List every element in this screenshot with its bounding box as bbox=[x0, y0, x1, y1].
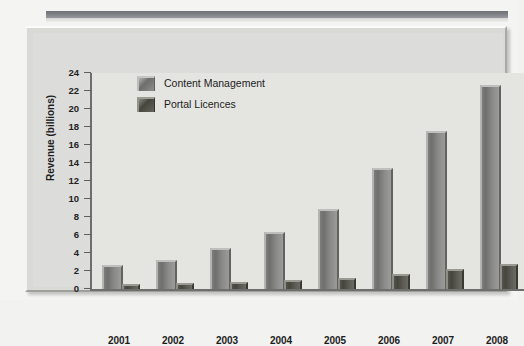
y-tick-label: 12 bbox=[68, 176, 79, 186]
bar-face bbox=[446, 269, 464, 289]
y-tick-label: 2 bbox=[74, 266, 79, 276]
x-axis-label: 2001 bbox=[108, 335, 130, 346]
y-tick-label: 0 bbox=[74, 284, 79, 294]
y-tick: 10 bbox=[84, 198, 91, 199]
legend-item-content-management: Content Management bbox=[137, 75, 265, 91]
bar-face bbox=[264, 232, 285, 289]
bar-portal-licences bbox=[122, 286, 136, 289]
legend-swatch-content-management bbox=[137, 76, 155, 91]
bar-content-management bbox=[210, 250, 227, 289]
bar-face bbox=[500, 264, 518, 289]
bar-content-management bbox=[426, 133, 443, 289]
bar-portal-licences bbox=[392, 276, 406, 289]
y-tick: 12 bbox=[84, 180, 91, 181]
bar-face bbox=[392, 274, 410, 289]
x-axis-label: 2006 bbox=[378, 335, 400, 346]
bar-portal-licences bbox=[284, 282, 298, 289]
bar-face bbox=[318, 209, 339, 289]
bar-group bbox=[362, 73, 416, 289]
bar-face bbox=[102, 265, 123, 289]
chart-legend: Content Management Portal Licences bbox=[137, 75, 265, 117]
x-axis-label: 2004 bbox=[270, 335, 292, 346]
bar-content-management bbox=[480, 87, 497, 290]
bar-face bbox=[122, 284, 140, 289]
bar-group bbox=[470, 73, 524, 289]
x-axis-label: 2005 bbox=[324, 335, 346, 346]
y-tick: 20 bbox=[84, 108, 91, 109]
y-tick-label: 24 bbox=[68, 68, 79, 78]
legend-swatch-portal-licences bbox=[137, 97, 155, 112]
legend-item-portal-licences: Portal Licences bbox=[137, 96, 265, 112]
legend-label-portal-licences: Portal Licences bbox=[164, 98, 236, 110]
y-tick-label: 4 bbox=[74, 248, 79, 258]
bar-portal-licences bbox=[230, 284, 244, 289]
y-tick: 6 bbox=[84, 234, 91, 235]
bar-content-management bbox=[264, 234, 281, 289]
bar-face bbox=[230, 282, 248, 289]
y-tick-label: 10 bbox=[68, 194, 79, 204]
bar-content-management bbox=[372, 170, 389, 289]
bar-portal-licences bbox=[446, 271, 460, 289]
legend-label-content-management: Content Management bbox=[164, 77, 265, 89]
y-tick: 8 bbox=[84, 216, 91, 217]
bar-group bbox=[308, 73, 362, 289]
top-band-shadow bbox=[46, 18, 508, 22]
y-tick-label: 14 bbox=[68, 158, 79, 168]
y-tick: 2 bbox=[84, 270, 91, 271]
bar-face bbox=[426, 131, 447, 289]
bar-portal-licences bbox=[500, 266, 514, 289]
y-tick: 24 bbox=[84, 72, 91, 73]
bar-portal-licences bbox=[176, 285, 190, 290]
bar-group bbox=[416, 73, 470, 289]
bar-content-management bbox=[318, 211, 335, 289]
y-tick-label: 22 bbox=[68, 86, 79, 96]
bar-portal-licences bbox=[338, 280, 352, 289]
y-tick: 16 bbox=[84, 144, 91, 145]
y-tick-label: 20 bbox=[68, 104, 79, 114]
y-tick: 22 bbox=[84, 90, 91, 91]
bar-content-management bbox=[156, 262, 173, 289]
y-tick-label: 6 bbox=[74, 230, 79, 240]
bar-face bbox=[176, 283, 194, 290]
chart-panel-inner: Revenue (billions) 024681012141618202224… bbox=[33, 33, 503, 287]
y-tick: 4 bbox=[84, 252, 91, 253]
x-axis-label: 2002 bbox=[162, 335, 184, 346]
x-axis-label: 2007 bbox=[432, 335, 454, 346]
bar-face bbox=[210, 248, 231, 289]
y-tick: 14 bbox=[84, 162, 91, 163]
y-tick: 0 bbox=[84, 288, 91, 289]
bar-face bbox=[338, 278, 356, 289]
bar-face bbox=[480, 85, 501, 290]
bar-content-management bbox=[102, 267, 119, 289]
x-axis-label: 2008 bbox=[486, 335, 508, 346]
y-tick-label: 8 bbox=[74, 212, 79, 222]
bar-face bbox=[156, 260, 177, 289]
y-tick: 18 bbox=[84, 126, 91, 127]
top-decorative-band bbox=[46, 11, 508, 18]
bar-face bbox=[284, 280, 302, 289]
y-axis-title: Revenue (billions) bbox=[45, 95, 56, 181]
x-axis-label: 2003 bbox=[216, 335, 238, 346]
bar-face bbox=[372, 168, 393, 289]
y-tick-label: 18 bbox=[68, 122, 79, 132]
y-tick-label: 16 bbox=[68, 140, 79, 150]
